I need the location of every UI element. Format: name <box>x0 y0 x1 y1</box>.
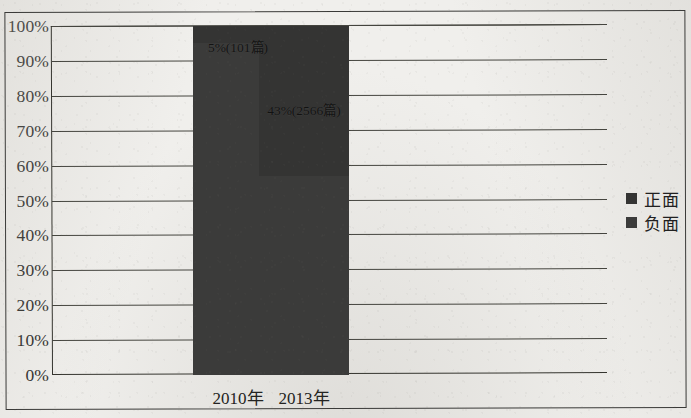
bar-group-1[interactable] <box>259 26 349 375</box>
legend-item-negative: 负面 <box>626 210 680 234</box>
x-axis-tick-0: 2010年 <box>213 384 264 409</box>
plot-area: 5%(101篇)43%(2566篇) <box>52 26 607 375</box>
legend-swatch-negative-icon <box>626 217 637 228</box>
bar-segment-negative-1[interactable] <box>259 176 349 375</box>
legend-item-positive: 正面 <box>626 186 680 210</box>
legend-label-negative: 负面 <box>644 210 680 235</box>
legend-label-positive: 正面 <box>644 186 680 211</box>
chart-legend: 正面 负面 <box>626 186 680 234</box>
bar-segment-positive-1[interactable] <box>259 26 349 176</box>
legend-swatch-positive-icon <box>626 193 637 204</box>
x-axis-tick-1: 2013年 <box>279 384 330 409</box>
chart-scan-page: 0%10%20%30%40%50%60%70%80%90%100% 5%(101… <box>0 0 691 418</box>
